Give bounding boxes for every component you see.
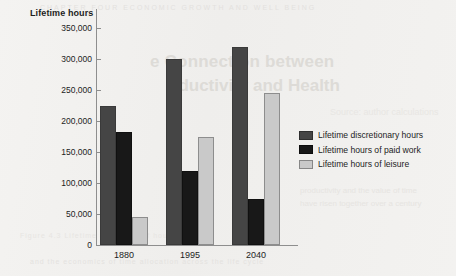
y-axis-label: 250,000	[34, 85, 92, 95]
bar-1995-series-1	[166, 59, 182, 245]
x-axis-label-2040: 2040	[232, 250, 280, 260]
y-axis-label: 350,000	[34, 23, 92, 33]
bar-1880-series-2	[116, 132, 132, 245]
bar-1880-series-3	[132, 217, 148, 245]
bar-chart: Lifetime hours 050,000100,000150,000200,…	[0, 0, 456, 276]
bar-2040-series-2	[248, 199, 264, 246]
y-axis-tick	[96, 28, 101, 29]
y-axis-label: 150,000	[34, 147, 92, 157]
y-axis-line	[96, 9, 97, 246]
y-axis-tick	[96, 90, 101, 91]
legend-label: Lifetime hours of leisure	[318, 159, 409, 169]
y-axis-label: 0	[34, 240, 92, 250]
bar-1880-series-1	[100, 106, 116, 246]
y-axis-label: 300,000	[34, 54, 92, 64]
bar-2040-series-1	[232, 47, 248, 245]
y-axis-label: 50,000	[34, 209, 92, 219]
bar-2040-series-3	[264, 93, 280, 245]
legend-swatch-discretionary-icon	[299, 131, 313, 140]
legend-swatch-leisure-icon	[299, 160, 313, 169]
bar-1995-series-3	[198, 137, 214, 246]
bar-1995-series-2	[182, 171, 198, 245]
legend-item[interactable]: Lifetime discretionary hours	[299, 128, 423, 142]
x-axis-line	[96, 245, 298, 246]
chart-legend: Lifetime discretionary hours Lifetime ho…	[299, 128, 423, 172]
chart-title: Lifetime hours	[30, 8, 93, 18]
legend-label: Lifetime discretionary hours	[318, 130, 423, 140]
y-axis-tick	[96, 245, 101, 246]
y-axis-tick	[96, 59, 101, 60]
x-axis-label-1995: 1995	[166, 250, 214, 260]
legend-item[interactable]: Lifetime hours of leisure	[299, 157, 423, 171]
legend-label: Lifetime hours of paid work	[318, 145, 421, 155]
x-axis-label-1880: 1880	[100, 250, 148, 260]
y-axis-label: 200,000	[34, 116, 92, 126]
legend-item[interactable]: Lifetime hours of paid work	[299, 143, 423, 157]
legend-swatch-paid-work-icon	[299, 145, 313, 154]
y-axis-label: 100,000	[34, 178, 92, 188]
